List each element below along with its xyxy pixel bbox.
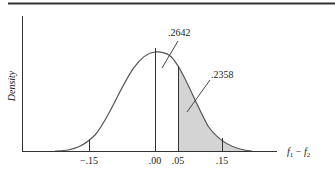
- normal-distribution-chart: .2642 .2358 −.15 .00 .05 .15 Density f1 …: [0, 0, 335, 173]
- annotation-center: .2642: [168, 27, 191, 38]
- y-axis-label: Density: [6, 70, 17, 102]
- density-curve: [55, 52, 252, 151]
- x-tick-label: .00: [149, 155, 162, 166]
- x-tick-label: .05: [172, 155, 185, 166]
- leader-center: [162, 41, 178, 68]
- x-tick-label: −.15: [80, 155, 98, 166]
- x-tick-label: .15: [216, 155, 229, 166]
- x-axis-label: f1 − f2: [287, 146, 311, 159]
- annotation-tail: .2358: [211, 69, 234, 80]
